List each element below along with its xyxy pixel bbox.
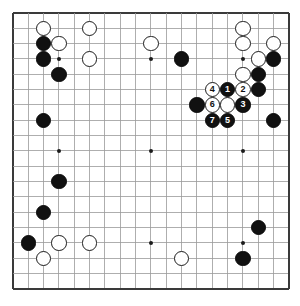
white-stone[interactable] bbox=[82, 51, 98, 67]
black-stone[interactable] bbox=[251, 67, 267, 83]
white-stone[interactable] bbox=[251, 51, 267, 67]
stone-number-label: 2 bbox=[240, 85, 245, 94]
star-point bbox=[57, 57, 61, 61]
star-point bbox=[241, 57, 245, 61]
move-stone-2[interactable]: 2 bbox=[235, 82, 251, 98]
black-stone[interactable] bbox=[21, 235, 37, 251]
star-point bbox=[149, 241, 153, 245]
stone-number-label: 1 bbox=[225, 85, 230, 94]
black-stone[interactable] bbox=[51, 67, 67, 83]
white-stone[interactable] bbox=[51, 235, 67, 251]
white-stone[interactable] bbox=[235, 21, 251, 37]
white-stone[interactable] bbox=[51, 36, 67, 52]
go-board[interactable]: 4126375 bbox=[9, 9, 293, 293]
white-stone[interactable] bbox=[235, 36, 251, 52]
star-point bbox=[149, 149, 153, 153]
stone-number-label: 5 bbox=[225, 115, 230, 124]
black-stone[interactable] bbox=[36, 51, 52, 67]
white-stone[interactable] bbox=[82, 235, 98, 251]
white-stone[interactable] bbox=[235, 67, 251, 83]
stone-number-label: 4 bbox=[210, 85, 215, 94]
stone-number-label: 6 bbox=[210, 100, 215, 109]
move-stone-3[interactable]: 3 bbox=[235, 97, 251, 113]
star-point bbox=[241, 241, 245, 245]
star-point bbox=[241, 149, 245, 153]
stone-number-label: 3 bbox=[240, 100, 245, 109]
black-stone[interactable] bbox=[266, 51, 282, 67]
black-stone[interactable] bbox=[189, 97, 205, 113]
move-stone-7[interactable]: 7 bbox=[205, 113, 221, 129]
black-stone[interactable] bbox=[235, 251, 251, 267]
star-point bbox=[149, 57, 153, 61]
white-stone[interactable] bbox=[143, 36, 159, 52]
black-stone[interactable] bbox=[51, 174, 67, 190]
move-stone-6[interactable]: 6 bbox=[205, 97, 221, 113]
star-point bbox=[57, 149, 61, 153]
black-stone[interactable] bbox=[174, 51, 190, 67]
white-stone[interactable] bbox=[220, 97, 236, 113]
go-board-container: 4126375 bbox=[0, 0, 300, 306]
stone-number-label: 7 bbox=[210, 115, 215, 124]
